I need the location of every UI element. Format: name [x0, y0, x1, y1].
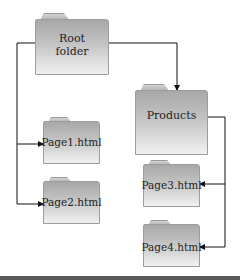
folder-body: Page2.html	[43, 181, 100, 224]
page4-label: Page4.html	[141, 241, 201, 254]
folder-body: Page4.html	[143, 224, 200, 267]
root-folder-label-line1: Root	[59, 32, 85, 45]
page1-file-node[interactable]: Page1.html	[43, 117, 100, 164]
bottom-bar	[0, 276, 240, 280]
folder-body: Page1.html	[43, 121, 100, 164]
page1-label: Page1.html	[41, 136, 101, 149]
products-folder-label: Products	[147, 109, 197, 122]
page3-label: Page3.html	[141, 179, 201, 192]
page2-label: Page2.html	[41, 196, 101, 209]
site-structure-diagram: Root folder Products Page1.html Page2.ht…	[0, 0, 240, 280]
page3-file-node[interactable]: Page3.html	[143, 160, 200, 207]
folder-body: Products	[135, 90, 208, 155]
folder-body: Page3.html	[143, 164, 200, 207]
products-folder-node[interactable]: Products	[135, 84, 208, 155]
page2-file-node[interactable]: Page2.html	[43, 177, 100, 224]
folder-body: Root folder	[35, 19, 109, 75]
page4-file-node[interactable]: Page4.html	[143, 220, 200, 267]
root-folder-label-line2: folder	[55, 45, 88, 58]
root-folder-node[interactable]: Root folder	[35, 13, 109, 75]
